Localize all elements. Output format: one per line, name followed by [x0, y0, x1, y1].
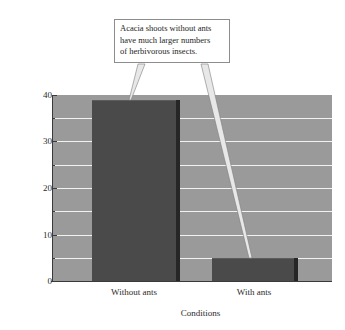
plot-area — [52, 95, 332, 281]
callout-line-3: of herbivorous insects. — [120, 46, 224, 58]
y-tick-mark-10 — [52, 235, 57, 236]
y-tick-mark-35 — [52, 118, 55, 119]
bar-with-ants-cap — [212, 258, 294, 259]
x-axis-line — [51, 281, 332, 282]
y-tick-mark-0 — [52, 281, 57, 282]
bar-with-ants-shadow — [294, 258, 298, 281]
x-tick-label-with-ants: With ants — [211, 287, 297, 297]
y-axis-ticks: 40 30 20 10 0 — [24, 95, 52, 281]
y-tick-mark-15 — [52, 211, 55, 212]
y-tick-mark-25 — [52, 165, 55, 166]
x-axis-title-text: Conditions — [181, 308, 221, 318]
callout-line-2: have much larger numbers — [120, 35, 224, 47]
bar-with-ants — [212, 258, 294, 281]
y-tick-label-20: 20 — [30, 184, 52, 193]
y-tick-mark-20 — [52, 188, 57, 189]
y-tick-mark-5 — [52, 258, 55, 259]
x-tick-label-without-ants: Without ants — [91, 287, 177, 297]
callout-line-1: Acacia shoots without ants — [120, 23, 224, 35]
y-tick-mark-30 — [52, 141, 57, 142]
bar-without-ants-cap — [92, 100, 176, 101]
bar-chart-figure: 40 30 20 10 0 Without ants With ants Con… — [0, 0, 345, 330]
y-tick-label-40: 40 — [30, 91, 52, 100]
y-tick-mark-40 — [52, 95, 57, 96]
bar-without-ants-shadow — [176, 100, 180, 281]
y-tick-label-0: 0 — [30, 277, 52, 286]
callout-annotation: Acacia shoots without ants have much lar… — [114, 19, 230, 63]
y-tick-label-30: 30 — [30, 137, 52, 146]
y-tick-label-10: 10 — [30, 231, 52, 240]
x-axis-title: Conditions — [0, 308, 345, 318]
bar-without-ants — [92, 100, 176, 281]
